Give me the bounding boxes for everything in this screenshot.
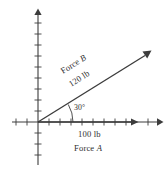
force-b-vector bbox=[38, 51, 152, 123]
force-a-magnitude-label: 100 lb bbox=[78, 129, 101, 139]
force-b-vector-line bbox=[38, 56, 145, 123]
force-diagram-figure: Force B 120 lb 30° 100 lb Force A bbox=[0, 0, 166, 169]
force-a-label: Force A bbox=[74, 143, 103, 153]
force-a-vector bbox=[38, 119, 139, 126]
angle-label: 30° bbox=[74, 103, 85, 112]
vector-diagram-canvas: Force B 120 lb 30° 100 lb Force A bbox=[0, 0, 166, 169]
force-b-arrowhead-icon bbox=[143, 51, 152, 59]
x-axis-arrowhead-icon bbox=[157, 118, 164, 125]
y-axis-arrowhead-icon bbox=[34, 9, 41, 16]
axes-group bbox=[12, 9, 164, 166]
force-a-arrowhead-icon bbox=[131, 119, 139, 126]
